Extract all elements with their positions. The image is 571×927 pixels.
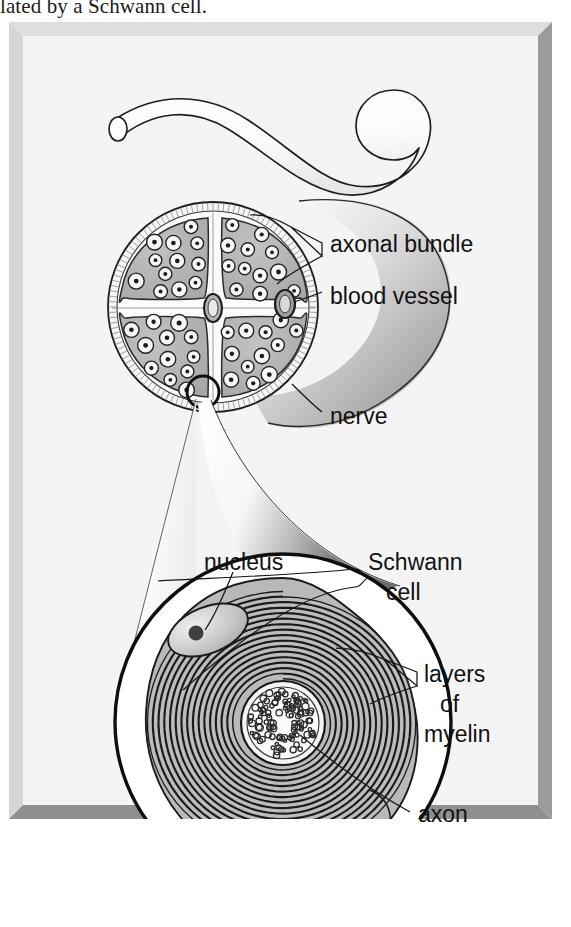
label-myelin: myelin <box>424 721 490 747</box>
label-blood-vessel: blood vessel <box>330 283 458 309</box>
blood-vessel-right-lumen <box>280 295 291 313</box>
nerve-schwann-cell-diagram: axonal bundle blood vessel nerve nucleus… <box>0 0 571 927</box>
blood-vessel-center-lumen <box>208 299 218 317</box>
label-of: of <box>440 691 460 717</box>
label-axonal-bundle: axonal bundle <box>330 231 473 257</box>
label-schwann-cell-line1: Schwann <box>368 549 463 575</box>
nerve-cut-end <box>109 117 127 141</box>
nerve-cross-section <box>108 202 318 412</box>
label-nucleus: nucleus <box>204 549 283 575</box>
label-layers: layers <box>424 661 485 687</box>
figure-page: lated by a Schwann cell. <box>0 0 571 927</box>
label-axon: axon <box>418 801 468 827</box>
nucleolus <box>189 626 204 641</box>
label-schwann-cell-line2: cell <box>386 579 421 605</box>
label-nerve: nerve <box>330 403 388 429</box>
